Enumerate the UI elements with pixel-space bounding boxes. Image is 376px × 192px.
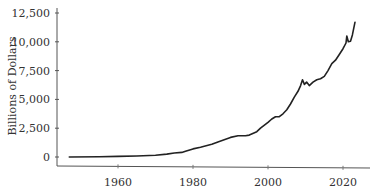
y-tick-label: 10,000 [12,36,51,49]
x-tick-label: 1960 [104,176,132,189]
data-line [69,22,355,157]
y-tick-label: 5,000 [19,93,51,106]
y-tick-label: 7,500 [19,65,51,78]
x-tick-label: 2020 [329,176,357,189]
y-tick-label: 0 [43,151,50,164]
y-tick-label: 2,500 [19,122,51,135]
y-axis-title: Billions of Dollars [6,36,19,135]
x-tick-label: 2000 [254,176,282,189]
x-tick-label: 1980 [179,176,207,189]
line-chart: Billions of Dollars 02,5005,0007,50010,0… [0,0,376,192]
x-axis: 1960198020002020 [57,164,370,189]
y-tick-label: 12,500 [12,7,51,20]
